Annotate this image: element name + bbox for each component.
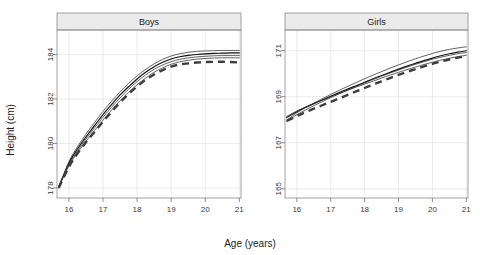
strip-label: Girls bbox=[367, 17, 386, 27]
x-tick-label: 17 bbox=[326, 205, 335, 214]
growth-chart-figure: Height (cm) Age (years) Boys161718192021… bbox=[0, 0, 480, 255]
chart-background bbox=[0, 0, 480, 255]
x-tick-label: 21 bbox=[462, 205, 471, 214]
y-tick-label: 167 bbox=[274, 136, 283, 150]
x-tick-label: 17 bbox=[99, 205, 108, 214]
x-tick-label: 21 bbox=[235, 205, 244, 214]
x-tick-label: 20 bbox=[428, 205, 437, 214]
y-tick-label: 165 bbox=[274, 182, 283, 196]
x-tick-label: 19 bbox=[167, 205, 176, 214]
y-tick-label: 180 bbox=[46, 136, 55, 150]
x-axis-title: Age (years) bbox=[224, 238, 276, 249]
chart-canvas: Height (cm) Age (years) Boys161718192021… bbox=[0, 0, 480, 255]
y-tick-label: 171 bbox=[274, 43, 283, 57]
y-tick-label: 184 bbox=[46, 47, 55, 61]
y-tick-label: 178 bbox=[46, 181, 55, 195]
y-tick-label: 169 bbox=[274, 90, 283, 104]
x-tick-label: 16 bbox=[292, 205, 301, 214]
y-tick-label: 182 bbox=[46, 92, 55, 106]
x-tick-label: 20 bbox=[201, 205, 210, 214]
strip-label: Boys bbox=[139, 17, 160, 27]
x-tick-label: 18 bbox=[360, 205, 369, 214]
x-tick-label: 19 bbox=[394, 205, 403, 214]
x-tick-label: 16 bbox=[64, 205, 73, 214]
x-tick-label: 18 bbox=[133, 205, 142, 214]
y-axis-title: Height (cm) bbox=[5, 104, 16, 156]
